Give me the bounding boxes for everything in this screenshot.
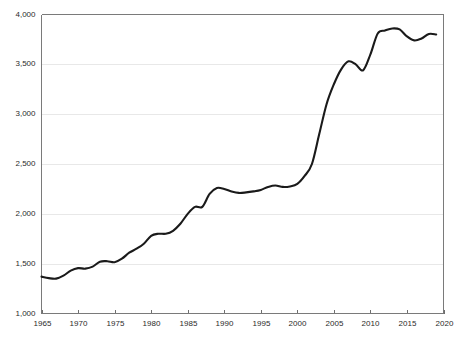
data-series-group bbox=[42, 28, 437, 278]
x-tick-label-1995: 1995 bbox=[253, 319, 271, 328]
x-axis-tick-labels: 1965197019751980198519901995200020052010… bbox=[34, 319, 454, 328]
chart-canvas: 1,0001,5002,0002,5003,0003,5004,000 1965… bbox=[0, 0, 467, 346]
y-axis-tick-labels: 1,0001,5002,0002,5003,0003,5004,000 bbox=[15, 10, 36, 318]
y-tick-label-3000: 3,000 bbox=[15, 109, 36, 118]
gridlines bbox=[42, 65, 444, 265]
x-axis-tick-marks bbox=[43, 310, 445, 314]
y-tick-label-1000: 1,000 bbox=[15, 309, 36, 318]
line-chart: 1,0001,5002,0002,5003,0003,5004,000 1965… bbox=[0, 0, 467, 346]
x-tick-label-1985: 1985 bbox=[180, 319, 198, 328]
x-tick-label-2010: 2010 bbox=[362, 319, 380, 328]
x-tick-label-1975: 1975 bbox=[107, 319, 125, 328]
x-tick-label-2015: 2015 bbox=[399, 319, 417, 328]
x-tick-label-2005: 2005 bbox=[326, 319, 344, 328]
x-tick-label-2000: 2000 bbox=[289, 319, 307, 328]
y-tick-label-2000: 2,000 bbox=[15, 209, 36, 218]
x-tick-label-1970: 1970 bbox=[70, 319, 88, 328]
series-line-1 bbox=[42, 28, 437, 278]
x-tick-label-1990: 1990 bbox=[216, 319, 234, 328]
y-tick-label-2500: 2,500 bbox=[15, 159, 36, 168]
y-tick-label-1500: 1,500 bbox=[15, 259, 36, 268]
x-tick-label-1980: 1980 bbox=[143, 319, 161, 328]
y-tick-label-3500: 3,500 bbox=[15, 59, 36, 68]
x-tick-label-1965: 1965 bbox=[34, 319, 52, 328]
y-tick-label-4000: 4,000 bbox=[15, 10, 36, 19]
x-tick-label-2020: 2020 bbox=[436, 319, 454, 328]
